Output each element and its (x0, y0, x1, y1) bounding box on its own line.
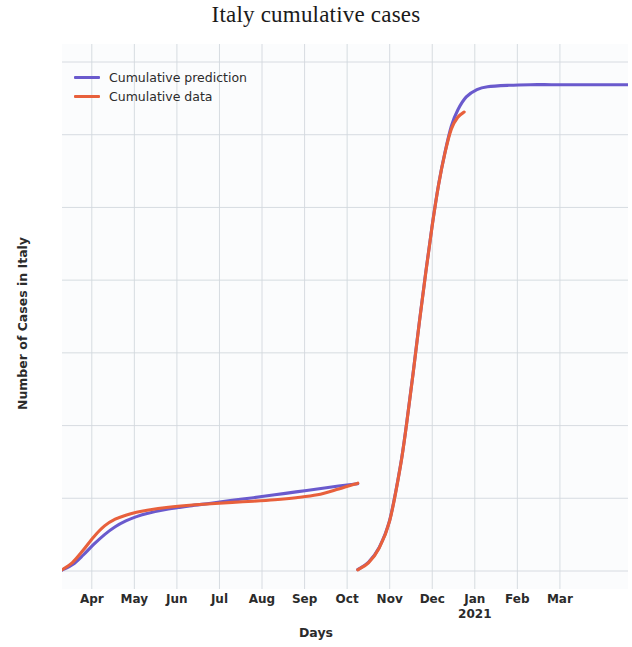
data-curves (62, 44, 628, 589)
x-tick-label: Jul (211, 592, 228, 606)
legend-color-swatch (74, 95, 100, 98)
chart-legend: Cumulative predictionCumulative data (68, 66, 253, 108)
x-tick-label: Mar (547, 592, 573, 606)
legend-color-swatch (74, 76, 100, 79)
chart-figure: Italy cumulative cases 1e6 0.000.250.500… (0, 0, 632, 647)
x-tick-label: Feb (505, 592, 529, 606)
x-tick-label: Aug (249, 592, 275, 606)
plot-area (62, 44, 628, 589)
x-tick-sublabel-year: 2021 (458, 607, 491, 621)
curve-cumulative-data-second-wave (358, 112, 464, 570)
x-axis-label: Days (0, 625, 632, 640)
x-tick-label: Nov (377, 592, 403, 606)
x-tick-label: Dec (420, 592, 445, 606)
x-tick-label: Oct (336, 592, 359, 606)
curve-cumulative-prediction-second-wave (358, 85, 628, 570)
x-tick-label: Jun (166, 592, 188, 606)
y-axis-label: Number of Cases in Italy (15, 214, 30, 434)
x-tick-label: Jan (464, 592, 485, 606)
legend-label: Cumulative data (109, 89, 212, 104)
legend-item: Cumulative prediction (74, 68, 247, 87)
legend-label: Cumulative prediction (109, 70, 247, 85)
x-tick-label: May (121, 592, 149, 606)
curve-cumulative-data-first-wave (62, 483, 358, 570)
x-tick-label: Apr (80, 592, 104, 606)
legend-item: Cumulative data (74, 87, 247, 106)
chart-title: Italy cumulative cases (0, 2, 632, 28)
x-tick-label: Sep (292, 592, 317, 606)
